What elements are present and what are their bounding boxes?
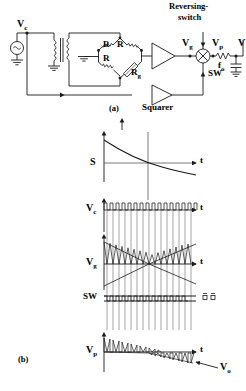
- axis-label-t-S: t: [200, 156, 203, 165]
- figure-root: Vc R R R Rg Reversing- switch Vg Vp SW f…: [0, 0, 246, 391]
- label-vc-source: Vc: [17, 19, 27, 32]
- axis-label-t-Vp: t: [200, 345, 203, 354]
- transformer-icon: [48, 33, 69, 86]
- vc-drop-lines: [107, 210, 191, 330]
- label-reversing-switch-line2: switch: [178, 13, 201, 22]
- label-bridge-rg: Rg: [131, 68, 141, 80]
- label-bridge-r2: R: [117, 40, 124, 49]
- ground-icon-bridge: [78, 57, 90, 62]
- plot-S: [102, 131, 196, 182]
- sw-state-markers: [203, 294, 215, 300]
- vp-rectified-decay: [104, 338, 194, 363]
- label-bridge-r3: R: [103, 54, 110, 63]
- label-vp-node: Vp: [212, 38, 223, 51]
- capacitor-icon: [231, 56, 242, 76]
- arrow-squarer-feed: [60, 92, 65, 97]
- resistor-zigzag-icon: [216, 53, 230, 59]
- circuit-group: [11, 31, 244, 130]
- label-wave-Vc: Vc: [86, 203, 96, 216]
- label-vo-output: Vo: [220, 362, 231, 375]
- label-wave-Vp: Vp: [86, 345, 97, 358]
- arrow-a-marker: [120, 118, 125, 123]
- sw-square-wave: [104, 296, 188, 301]
- label-bridge-r1: R: [103, 40, 110, 49]
- vo-callout-leader: [196, 362, 218, 368]
- multiplier-circle-x-icon: [196, 32, 210, 63]
- label-wave-SW: SW: [83, 292, 97, 301]
- ground-icon-source: [11, 60, 23, 65]
- caption-b: (b): [18, 355, 28, 364]
- caption-a: (a): [109, 104, 119, 113]
- node-dot-vg: [188, 54, 191, 57]
- figure-svg: [0, 0, 246, 391]
- label-output-v: V: [238, 38, 245, 48]
- ac-source-icon: [11, 33, 24, 60]
- vc-pulse-train: [104, 203, 197, 210]
- axis-label-t-Vc: t: [200, 203, 203, 212]
- vg-oscillation: [104, 242, 191, 264]
- axis-label-t-Vg: t: [200, 257, 203, 266]
- arrow-sw-feed: [201, 72, 206, 77]
- label-filter-fo: fo: [218, 61, 225, 73]
- label-vg-node: Vg: [182, 38, 193, 51]
- label-wave-Vg: Vg: [86, 257, 97, 270]
- label-reversing-switch-line1: Reversing-: [169, 2, 208, 11]
- plot-SW: [104, 294, 215, 302]
- waveform-group: [102, 131, 218, 372]
- node-dot-vp: [212, 55, 215, 58]
- label-wave-S: S: [90, 157, 96, 167]
- label-squarer: Squarer: [142, 103, 173, 112]
